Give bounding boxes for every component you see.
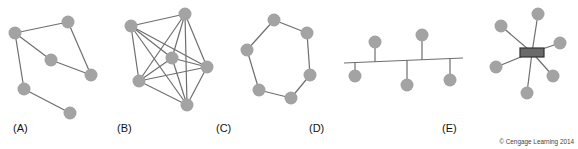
node-c <box>304 69 317 82</box>
label-a: (A) <box>13 122 28 134</box>
hub-switch <box>520 48 544 57</box>
node-a <box>62 16 75 29</box>
label-c: (C) <box>216 122 231 134</box>
node-d <box>401 79 414 92</box>
node-e <box>554 37 567 50</box>
node-e <box>495 20 508 33</box>
node-c <box>285 92 298 105</box>
edge-a <box>15 22 68 33</box>
edge-b <box>139 81 187 105</box>
node-b <box>125 20 138 33</box>
node-a <box>85 69 98 82</box>
label-b: (B) <box>117 122 132 134</box>
edge-b <box>185 14 187 105</box>
copyright-credit: © Cengage Learning 2014 <box>499 137 574 146</box>
node-b <box>201 61 214 74</box>
label-e: (E) <box>442 122 457 134</box>
node-b <box>166 52 179 65</box>
node-a <box>18 83 31 96</box>
node-a <box>45 54 58 67</box>
edge-b <box>131 26 139 81</box>
label-d: (D) <box>309 122 324 134</box>
node-a <box>9 27 22 40</box>
node-d <box>444 74 457 87</box>
node-e <box>521 87 534 100</box>
node-e <box>547 70 560 83</box>
node-c <box>241 44 254 57</box>
node-e <box>490 61 503 74</box>
node-c <box>253 84 266 97</box>
node-d <box>369 36 382 49</box>
node-b <box>133 75 146 88</box>
edge-b <box>131 14 185 26</box>
node-e <box>532 8 545 21</box>
edge-a <box>24 89 70 113</box>
edge-a <box>15 33 24 89</box>
node-d <box>349 70 362 83</box>
network-topology-diagrams <box>0 0 578 149</box>
bus-line <box>344 58 463 63</box>
node-c <box>268 14 281 27</box>
edge-b <box>172 58 187 105</box>
node-c <box>301 27 314 40</box>
edge-b <box>131 26 187 105</box>
node-d <box>416 29 429 42</box>
edge-a <box>15 33 51 60</box>
node-a <box>64 107 77 120</box>
node-b <box>179 8 192 21</box>
node-b <box>181 99 194 112</box>
edge-b <box>185 14 207 67</box>
